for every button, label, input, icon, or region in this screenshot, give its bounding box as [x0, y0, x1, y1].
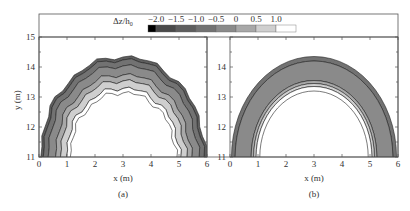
colorbar-tick-label: 0	[234, 14, 239, 24]
x-tick-label: 2	[284, 159, 289, 169]
panel-b: 012345611121314 x (m) (b)	[207, 37, 401, 199]
colorbar-swatch	[156, 25, 176, 32]
panel-a: 01234561112131415 x (m) y (m) (a)	[12, 32, 210, 199]
contour-bands-b	[231, 57, 396, 158]
y-axis-title: y (m)	[12, 90, 22, 110]
colorbar-swatch	[148, 25, 156, 32]
colorbar-swatch	[236, 25, 256, 32]
y-tick-label: 12	[26, 122, 35, 132]
colorbar-swatch	[256, 25, 276, 32]
x-tick-label: 2	[93, 159, 98, 169]
colorbar	[148, 25, 296, 32]
colorbar-tick-label: 1.0	[270, 14, 282, 24]
figure: Δz/h0 −2.0−1.5−1.0−0.500.51.0 0123456111…	[0, 0, 410, 211]
colorbar-swatch	[196, 25, 216, 32]
x-tick-label: 4	[149, 159, 154, 169]
y-tick-label: 14	[217, 62, 227, 72]
y-tick-label: 13	[26, 92, 36, 102]
x-tick-label: 1	[256, 159, 261, 169]
colorbar-swatch	[216, 25, 236, 32]
x-tick-label: 0	[37, 159, 42, 169]
y-tick-label: 11	[26, 152, 35, 162]
colorbar-swatch	[176, 25, 196, 32]
y-tick-label: 12	[217, 122, 226, 132]
y-tick-label: 13	[217, 92, 227, 102]
x-tick-label: 1	[65, 159, 70, 169]
colorbar-swatch	[276, 25, 296, 32]
panel-label-a: (a)	[118, 189, 128, 199]
x-tick-label: 5	[368, 159, 373, 169]
x-tick-label: 0	[228, 159, 233, 169]
y-tick-label: 14	[26, 62, 36, 72]
colorbar-tick-label: −1.0	[188, 14, 205, 24]
x-tick-label: 6	[396, 159, 401, 169]
colorbar-tick-label: −0.5	[208, 14, 225, 24]
panel-label-b: (b)	[309, 189, 320, 199]
legend: Δz/h0 −2.0−1.5−1.0−0.500.51.0	[113, 14, 296, 32]
colorbar-tick-label: −2.0	[148, 14, 165, 24]
x-axis-title-b: x (m)	[304, 173, 324, 183]
x-axis-title-a: x (m)	[113, 173, 133, 183]
y-tick-label: 15	[26, 32, 36, 42]
y-tick-label: 11	[217, 152, 226, 162]
x-tick-label: 5	[177, 159, 182, 169]
x-tick-label: 6	[205, 159, 210, 169]
contour-bands-a	[41, 56, 207, 157]
x-tick-label: 4	[340, 159, 345, 169]
x-tick-label: 3	[312, 159, 317, 169]
colorbar-tick-label: −1.5	[168, 14, 185, 24]
legend-title: Δz/h0	[113, 16, 133, 27]
legend-tick-labels: −2.0−1.5−1.0−0.500.51.0	[148, 14, 282, 24]
colorbar-tick-label: 0.5	[250, 14, 262, 24]
x-tick-label: 3	[121, 159, 126, 169]
